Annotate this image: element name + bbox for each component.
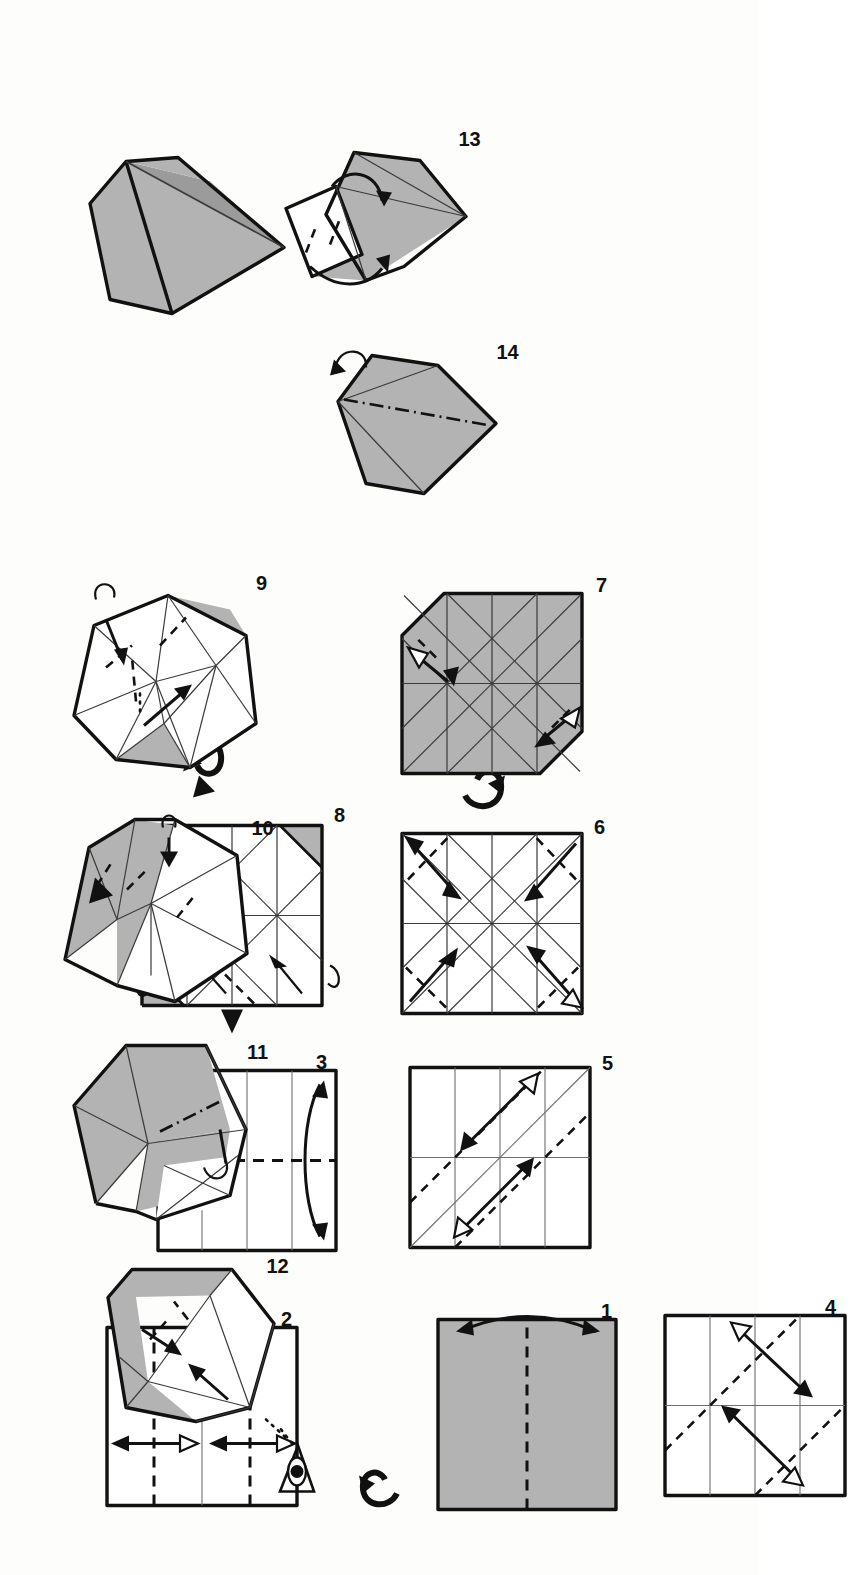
step-number-4: 4: [825, 1296, 836, 1319]
step-number-9: 9: [256, 572, 267, 595]
step-11: 11: [60, 1015, 275, 1225]
step-number-6: 6: [594, 816, 605, 839]
step-number-14: 14: [496, 340, 518, 363]
turn-over-symbol-1: [345, 1445, 415, 1515]
step-number-3: 3: [316, 1051, 327, 1074]
step-number-11: 11: [247, 1041, 268, 1064]
step-number-1: 1: [601, 1300, 612, 1323]
step-number-7: 7: [596, 574, 607, 597]
step-7: 7: [390, 573, 602, 785]
step-5: 5: [400, 1052, 605, 1257]
step-number-10: 10: [251, 816, 273, 839]
step-number-12: 12: [266, 1254, 288, 1277]
eye-view-symbol: [262, 1421, 332, 1501]
step-4: 4: [655, 1300, 851, 1505]
step-9: 9: [60, 570, 275, 785]
step-6: 6: [390, 815, 600, 1025]
step-1: 1: [430, 1297, 640, 1517]
step-10: 10: [55, 800, 270, 1015]
step-12: 12: [90, 1247, 300, 1447]
step-number-5: 5: [602, 1052, 613, 1075]
final-model: [60, 87, 300, 357]
step-14: 14: [320, 318, 520, 513]
step-number-13: 13: [458, 127, 480, 150]
step-13: 13: [270, 110, 490, 310]
step-number-8: 8: [334, 804, 345, 827]
